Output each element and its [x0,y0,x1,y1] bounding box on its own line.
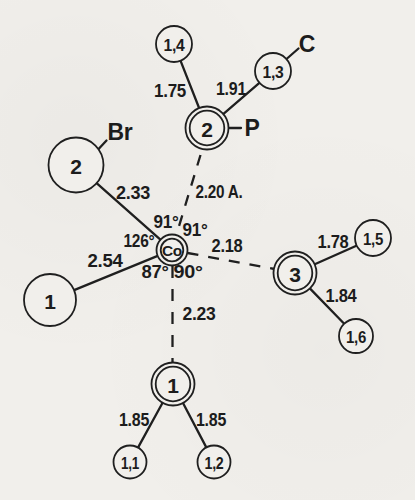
scanned-figure-page: 1,4 1,3 2 2 Co 3 1,5 [0,0,415,500]
atom-n3-label: 3 [289,263,300,286]
atom-co-label: Co [162,242,182,259]
atom-br-label: 2 [70,155,81,178]
bond-label-n3-a15: 1.78 [318,232,349,252]
atom-a16: 1,6 [339,319,373,353]
atom-bottom1: 1 [152,363,195,406]
element-label-p: P [244,115,259,141]
bond-label-bottom1-a11: 1.85 [119,410,149,430]
atom-left1-label: 1 [44,290,56,313]
tick-c-label [287,49,299,60]
atom-n3: 3 [274,252,317,295]
angle-label-left1-co-bottom1: 87° [142,262,169,282]
atom-a11-label: 1,1 [121,455,139,472]
atom-a16-label: 1,6 [346,329,366,346]
atom-br: 2 [49,138,104,193]
atom-left1: 1 [24,274,76,326]
atom-a11: 1,1 [114,446,147,479]
atom-p-label: 2 [201,118,212,141]
element-label-c: C [299,31,315,57]
bond-label-co-n3: 2.18 [212,236,243,256]
angle-label-p-co-n3: 91° [183,220,208,240]
molecular-structure-diagram: 1,4 1,3 2 2 Co 3 1,5 [0,0,415,500]
angle-label-left1-co-br: 126° [124,231,155,251]
element-label-br: Br [108,119,133,145]
atom-a14: 1,4 [156,26,192,62]
atom-a13-label: 1,3 [263,63,284,82]
bond-label-co-p: 2.20 A. [196,182,243,202]
bond-label-n3-a16: 1.84 [326,286,357,306]
bond-label-bottom1-a12: 1.85 [196,410,226,430]
bond-label-p-a13: 1.91 [216,79,246,99]
atom-a14-label: 1,4 [164,36,186,55]
atom-a13: 1,3 [255,53,291,89]
bond-label-co-br: 2.33 [116,183,150,203]
bond-label-p-a14: 1.75 [154,81,186,101]
atom-a12: 1,2 [198,446,231,479]
atom-bottom1-label: 1 [167,374,179,397]
bond-label-co-left1: 2.54 [88,251,123,271]
atom-a12-label: 1,2 [205,455,224,472]
angle-label-bottom1-co-n3: 90° [174,262,203,282]
atom-a15-label: 1,5 [363,231,383,248]
angle-label-br-co-p: 91° [154,212,179,232]
atom-a15: 1,5 [355,220,391,256]
bond-label-co-bottom1: 2.23 [183,304,216,324]
atom-p: 2 [186,107,229,150]
